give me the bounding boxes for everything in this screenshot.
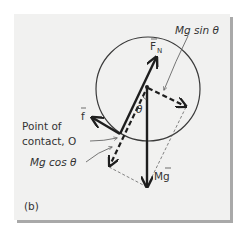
svg-text:N: N — [157, 47, 162, 55]
center-of-mass-dot — [145, 85, 149, 89]
rolling-object-force-diagram: Mg sin θ F N f θ Point of contact, O Mg … — [0, 0, 249, 237]
mg-sin-pointer — [164, 36, 188, 90]
angle-label: θ — [136, 103, 143, 115]
mg-cos-pointer — [86, 147, 112, 162]
normal-force-arrow — [120, 58, 156, 134]
normal-force-label: F N — [150, 39, 162, 55]
svg-text:F: F — [150, 40, 156, 52]
gravity-label: Mg — [154, 168, 171, 182]
mg-sin-label: Mg sin θ — [175, 24, 219, 36]
construction-line-left — [109, 167, 147, 187]
panel-label: (b) — [24, 200, 39, 212]
mg-sin-component-arrow — [148, 88, 185, 106]
svg-text:f: f — [81, 110, 85, 122]
contact-point-label-line1: Point of — [22, 120, 62, 132]
mg-cos-label: Mg cos θ — [30, 156, 77, 168]
contact-point-label-line2: contact, O — [22, 135, 76, 147]
friction-label: f — [81, 108, 86, 122]
contact-point-pointer — [90, 138, 117, 141]
svg-text:Mg: Mg — [154, 170, 170, 182]
